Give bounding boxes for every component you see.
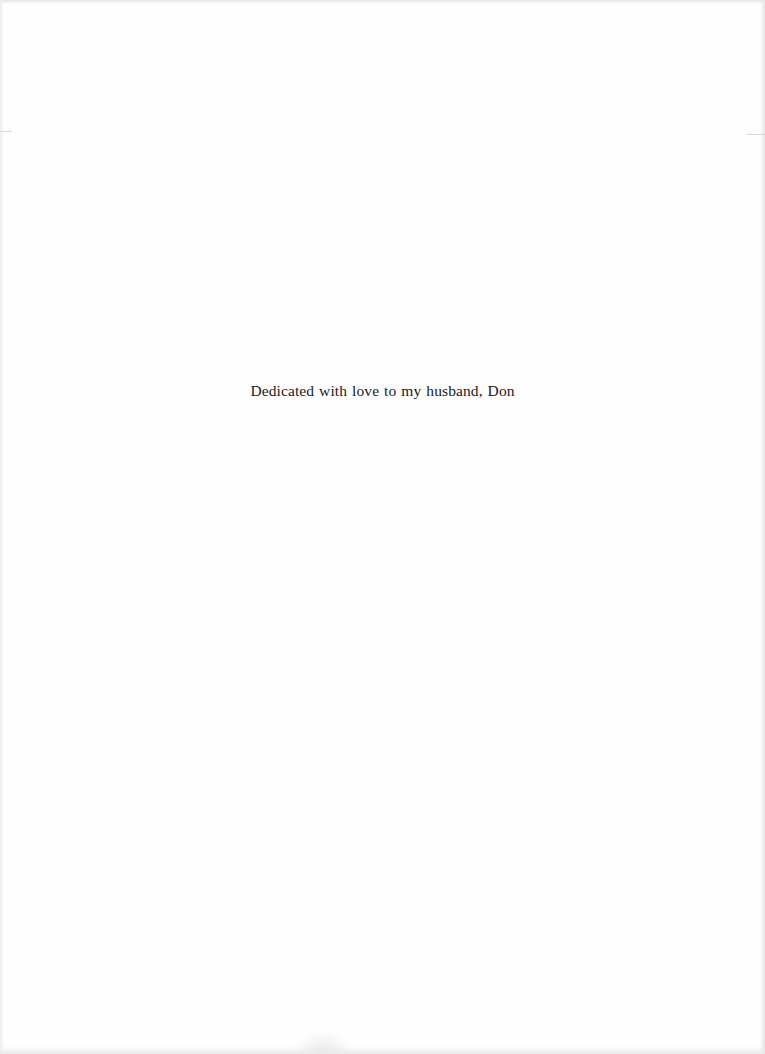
book-page: Dedicated with love to my husband, Don <box>0 0 765 1054</box>
dedication-text: Dedicated with love to my husband, Don <box>0 382 765 400</box>
page-edge-top <box>0 0 765 4</box>
page-edge-right <box>760 0 765 1054</box>
page-edge-left <box>0 0 4 1054</box>
scan-mark-left <box>0 131 12 132</box>
page-edge-bottom <box>0 1046 765 1054</box>
scan-mark-right <box>747 134 765 135</box>
scan-smudge <box>293 1030 353 1054</box>
